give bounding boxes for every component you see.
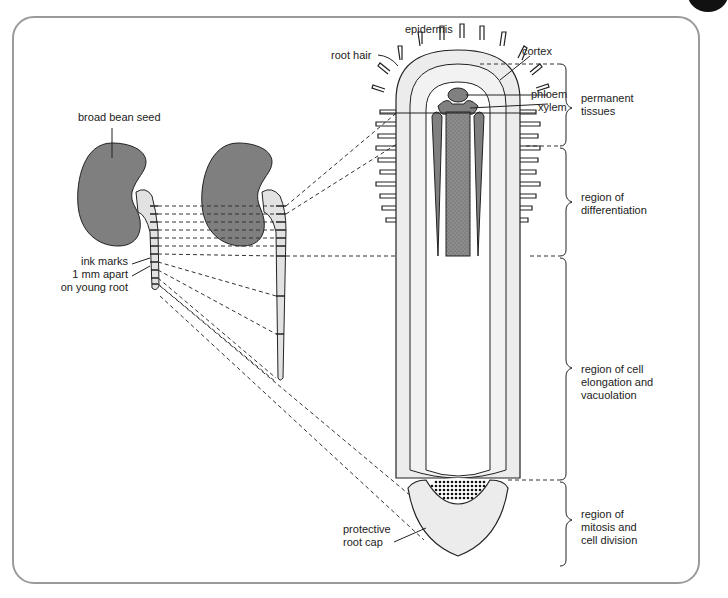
label-ink-marks-2: 1 mm apart bbox=[72, 268, 128, 280]
label-protective: protective bbox=[343, 523, 391, 535]
region-differentiation-l1: region of bbox=[581, 191, 625, 203]
label-ink-marks-3: on young root bbox=[61, 281, 128, 293]
region-elongation-l2: elongation and bbox=[581, 376, 653, 388]
region-differentiation-l2: differentiation bbox=[581, 204, 647, 216]
label-phloem: phloem bbox=[531, 88, 567, 100]
region-elongation-l1: region of cell bbox=[581, 363, 643, 375]
region-mitosis-l2: mitosis and bbox=[581, 521, 637, 533]
older-root bbox=[262, 190, 286, 380]
label-root-hair: root hair bbox=[331, 49, 372, 61]
label-broad-bean-seed: broad bean seed bbox=[78, 111, 161, 123]
region-mitosis-l1: region of bbox=[581, 508, 625, 520]
enlarged-root-tip bbox=[372, 24, 549, 556]
xylem-column bbox=[446, 112, 470, 256]
label-root-cap: root cap bbox=[343, 536, 383, 548]
label-epidermis: epidermis bbox=[405, 23, 453, 35]
older-seedling bbox=[202, 143, 286, 380]
region-permanent-l2: tissues bbox=[581, 105, 616, 117]
phloem bbox=[448, 88, 468, 102]
region-elongation-l3: vacuolation bbox=[581, 389, 637, 401]
young-root bbox=[136, 190, 159, 290]
region-braces bbox=[560, 64, 572, 566]
label-xylem: xylem bbox=[538, 101, 567, 113]
label-ink-marks-1: ink marks bbox=[81, 255, 129, 267]
region-permanent-l1: permanent bbox=[581, 92, 634, 104]
region-mitosis-l3: cell division bbox=[581, 534, 637, 546]
broad-bean-seed-2 bbox=[202, 143, 272, 246]
label-cortex: cortex bbox=[522, 45, 552, 57]
